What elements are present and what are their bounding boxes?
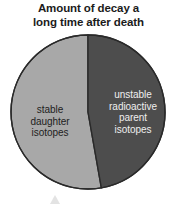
pie-label-stable-line-3: isotopes [14,127,86,139]
pie-label-unstable-line-4: isotopes [95,124,171,136]
pie-label-stable-daughter-isotopes: stable daughter isotopes [14,104,86,139]
pie-label-unstable-line-2: radioactive [95,101,171,113]
pie-label-unstable-line-3: parent [95,112,171,124]
pie-label-unstable-line-1: unstable [95,89,171,101]
pie-label-stable-line-1: stable [14,104,86,116]
triangle-marker-icon [50,195,60,204]
pie-label-unstable-radioactive-parent-isotopes: unstable radioactive parent isotopes [95,89,171,135]
pie-label-stable-line-2: daughter [14,116,86,128]
pie-chart-figure: Amount of decay a long time after death … [0,0,177,209]
